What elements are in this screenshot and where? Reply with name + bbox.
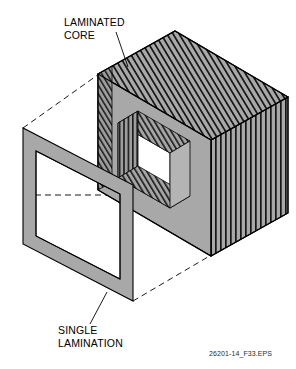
callout-single-lamination: SINGLE LAMINATION [58, 324, 123, 349]
callout-laminated-core-line1: LAMINATED [64, 16, 125, 28]
callout-laminated-core-line2: CORE [64, 29, 95, 41]
core-window-inner-back [170, 141, 190, 208]
callout-laminated-core: LAMINATED CORE [64, 16, 125, 41]
projection-line-top [23, 74, 99, 128]
figure-container: LAMINATED CORE SINGLE LAMINATION 26201-1… [0, 0, 296, 369]
callout-single-lamination-line1: SINGLE [58, 324, 97, 336]
projection-line-bottom [133, 254, 213, 301]
laminated-core-diagram: LAMINATED CORE SINGLE LAMINATION 26201-1… [0, 0, 296, 369]
figure-id-label: 26201-14_F33.EPS [209, 350, 272, 358]
leader-line-single-lamination [90, 292, 107, 324]
callout-single-lamination-line2: LAMINATION [58, 337, 123, 349]
